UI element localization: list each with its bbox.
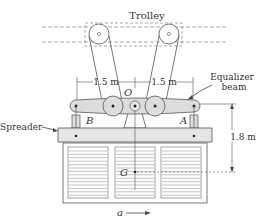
trolley-label: Trolley [129,10,165,21]
spreader-label: Spreader [0,122,43,132]
equalizer-label-line2: beam [222,82,247,92]
left-trolley-pulley [89,24,109,44]
point-b-label: B [85,115,93,126]
trolley-spreader-diagram: Trolley 1.5 m 1.5 m Equalizer beam [0,0,269,224]
point-a-label: A [179,115,187,126]
cables [89,36,179,106]
dim-arrow-top [230,104,234,109]
acceleration-label: a [117,207,123,218]
center-of-mass-label: G [120,167,128,178]
acceleration-arrowhead [145,211,151,215]
spreader-pin-b [75,135,78,138]
spreader-pin-a [193,135,196,138]
equalizer-label-line1: Equalizer [210,72,254,82]
right-trolley-pulley [159,24,179,44]
dim-arrow-bottom [230,167,234,172]
dim-left-label: 1.5 m [93,77,119,87]
spreader-arrowhead [53,128,58,132]
center-of-mass-point [134,171,137,174]
pivot-o-label: O [124,87,132,98]
dim-right-label: 1.5 m [151,77,177,87]
height-dim-label: 1.8 m [230,132,256,142]
